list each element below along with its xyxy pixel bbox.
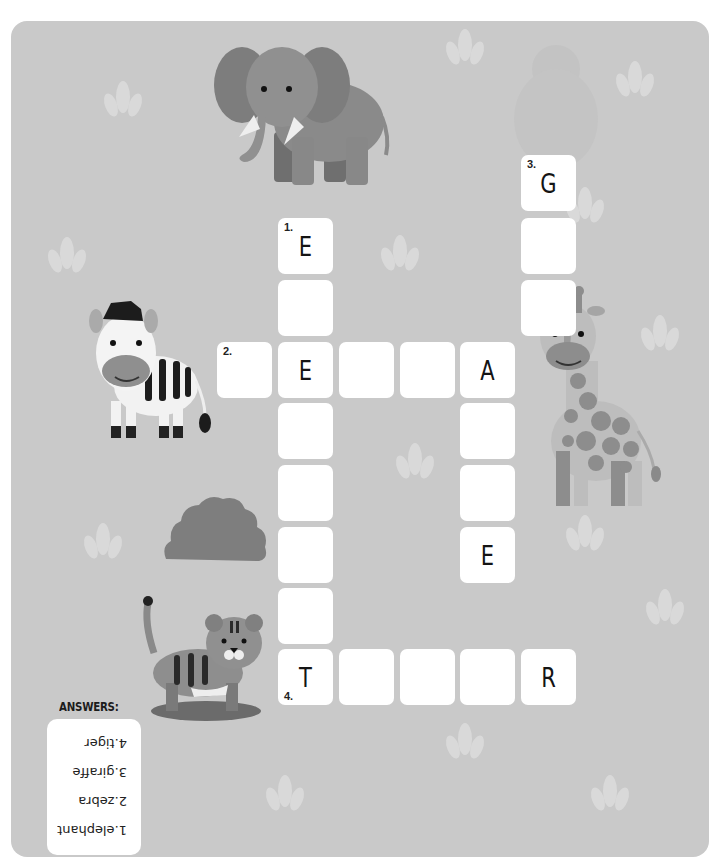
answers-box: 1.elephant 2.zebra 3.giraffe 4.tiger — [47, 719, 141, 855]
clue-number: 2. — [223, 345, 232, 357]
crossword-cell[interactable] — [460, 649, 515, 705]
crossword-cell[interactable]: 2. — [217, 342, 272, 398]
crossword-cell[interactable] — [339, 342, 394, 398]
crossword-cell[interactable]: 3.G — [521, 155, 576, 211]
crossword-cell[interactable]: 4.T — [278, 649, 333, 705]
cell-letter: E — [466, 540, 509, 571]
elephant-illustration-icon — [214, 37, 394, 187]
bush-illustration-icon — [161, 491, 271, 566]
crossword-cell[interactable] — [460, 403, 515, 459]
leaf-decoration-icon — [79, 521, 127, 561]
cell-letter: E — [284, 231, 327, 262]
cell-letter: T — [284, 662, 327, 693]
crossword-cell[interactable] — [278, 588, 333, 644]
crossword-cell[interactable] — [400, 649, 455, 705]
leaf-decoration-icon — [641, 587, 689, 627]
answers-list: 1.elephant 2.zebra 3.giraffe 4.tiger — [47, 719, 141, 855]
crossword-cell[interactable]: E — [460, 527, 515, 583]
leaf-decoration-icon — [391, 441, 439, 481]
leaf-decoration-icon — [261, 773, 309, 813]
faint-background-shape-icon — [511, 39, 601, 169]
cell-letter: G — [527, 168, 570, 199]
crossword-card: 3.G1.E2.EAE4.TR ANSWERS: 1.elephant 2.ze… — [11, 21, 709, 857]
tiger-illustration-icon — [136, 593, 276, 723]
answer-item: 3.giraffe — [47, 765, 141, 780]
crossword-cell[interactable] — [521, 280, 576, 336]
zebra-illustration-icon — [81, 291, 221, 441]
answers-title: ANSWERS: — [59, 699, 119, 714]
crossword-cell[interactable] — [278, 280, 333, 336]
crossword-cell[interactable]: 1.E — [278, 218, 333, 274]
crossword-cell[interactable] — [460, 465, 515, 521]
leaf-decoration-icon — [43, 235, 91, 275]
crossword-cell[interactable] — [339, 649, 394, 705]
leaf-decoration-icon — [441, 27, 489, 67]
crossword-cell[interactable] — [278, 403, 333, 459]
cell-letter: R — [527, 662, 570, 693]
crossword-cell[interactable]: A — [460, 342, 515, 398]
answer-item: 1.elephant — [47, 823, 141, 838]
crossword-cell[interactable]: E — [278, 342, 333, 398]
answer-item: 4.tiger — [47, 736, 141, 751]
crossword-cell[interactable] — [400, 342, 455, 398]
answer-item: 2.zebra — [47, 794, 141, 809]
cell-letter: A — [466, 355, 509, 386]
cell-letter: E — [284, 355, 327, 386]
leaf-decoration-icon — [611, 59, 659, 99]
leaf-decoration-icon — [441, 721, 489, 761]
leaf-decoration-icon — [561, 513, 609, 553]
crossword-cell[interactable]: R — [521, 649, 576, 705]
crossword-cell[interactable] — [278, 527, 333, 583]
leaf-decoration-icon — [586, 773, 634, 813]
crossword-cell[interactable] — [278, 465, 333, 521]
crossword-cell[interactable] — [521, 218, 576, 274]
leaf-decoration-icon — [376, 233, 424, 273]
leaf-decoration-icon — [99, 79, 147, 119]
